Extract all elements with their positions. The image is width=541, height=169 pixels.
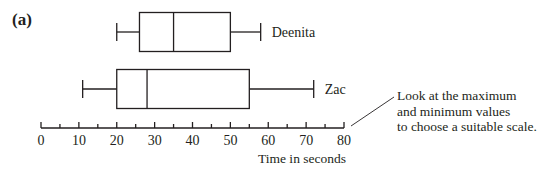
- annotation-leader-line: [351, 97, 394, 126]
- iqr-box: [139, 13, 230, 52]
- x-tick-label: 20: [110, 133, 124, 148]
- x-tick-label: 10: [72, 133, 86, 148]
- x-tick-label: 0: [38, 133, 45, 148]
- annotation-line: and minimum values: [397, 104, 537, 120]
- series-label: Zac: [325, 82, 346, 97]
- x-tick-label: 40: [186, 133, 200, 148]
- annotation-note: Look at the maximum and minimum values t…: [397, 88, 537, 135]
- iqr-box: [117, 70, 250, 109]
- series-label: Deenita: [272, 25, 316, 40]
- annotation-line: to choose a suitable scale.: [397, 119, 537, 135]
- x-tick-label: 80: [337, 133, 351, 148]
- x-tick-label: 60: [261, 133, 275, 148]
- x-axis-title: Time in seconds: [258, 151, 346, 166]
- annotation-line: Look at the maximum: [397, 88, 537, 104]
- x-tick-label: 30: [148, 133, 162, 148]
- x-tick-label: 70: [299, 133, 313, 148]
- box-plot-chart: 01020304050607080Time in secondsDeenitaZ…: [0, 0, 541, 169]
- x-tick-label: 50: [223, 133, 237, 148]
